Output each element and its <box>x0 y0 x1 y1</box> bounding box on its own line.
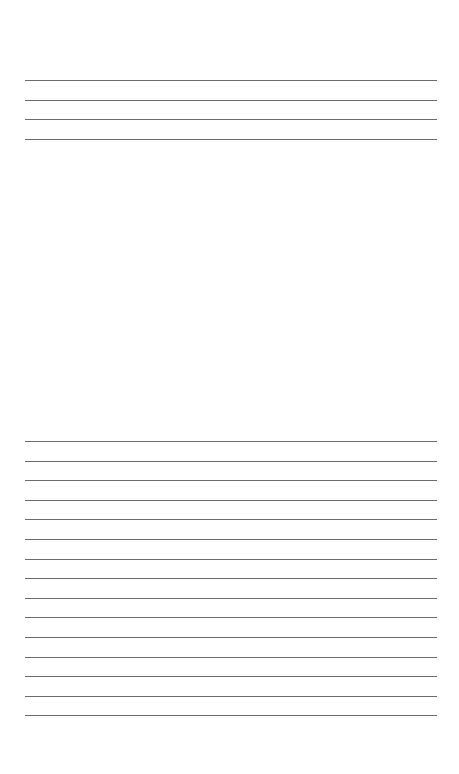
ruled-line <box>25 715 437 716</box>
ruled-line <box>25 617 437 618</box>
ruled-line <box>25 657 437 658</box>
ruled-line <box>25 500 437 501</box>
ruled-line <box>25 100 437 101</box>
ruled-line <box>25 539 437 540</box>
ruled-page <box>0 0 459 774</box>
ruled-line <box>25 696 437 697</box>
ruled-line <box>25 598 437 599</box>
ruled-line <box>25 519 437 520</box>
ruled-line <box>25 676 437 677</box>
ruled-line <box>25 119 437 120</box>
ruled-line <box>25 480 437 481</box>
ruled-line <box>25 461 437 462</box>
ruled-line <box>25 441 437 442</box>
ruled-line <box>25 80 437 81</box>
ruled-line <box>25 139 437 140</box>
ruled-line <box>25 578 437 579</box>
ruled-line <box>25 559 437 560</box>
ruled-line <box>25 637 437 638</box>
